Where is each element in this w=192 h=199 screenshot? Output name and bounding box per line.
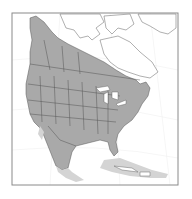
map-canvas <box>0 0 192 199</box>
greenland <box>138 14 176 34</box>
range-map <box>0 0 192 199</box>
primary-range <box>26 16 150 170</box>
